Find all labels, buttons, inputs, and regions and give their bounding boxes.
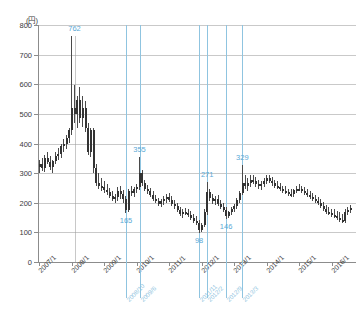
value-annotation-label: 762 bbox=[68, 24, 81, 33]
candle-body-down bbox=[336, 216, 338, 218]
candle-body-down bbox=[258, 184, 260, 186]
value-annotation-label: 165 bbox=[120, 216, 133, 225]
candle-body-down bbox=[339, 218, 341, 220]
candle-body-down bbox=[342, 220, 344, 222]
candle-wick bbox=[98, 173, 99, 189]
candle-body-down bbox=[141, 173, 143, 183]
value-annotation-label: 271 bbox=[201, 170, 214, 179]
candle-body-down bbox=[190, 215, 192, 218]
candle-body-down bbox=[93, 130, 95, 167]
candle-body-down bbox=[209, 192, 211, 198]
candle-body-up bbox=[44, 158, 46, 168]
candle-body-up bbox=[236, 200, 238, 206]
candle-body-down bbox=[317, 201, 319, 203]
candle-body-down bbox=[103, 187, 105, 189]
candle-body-down bbox=[155, 199, 157, 201]
candle-body-up bbox=[128, 191, 130, 209]
candle-body-up bbox=[160, 201, 162, 204]
candle-body-up bbox=[350, 208, 352, 210]
candle-body-up bbox=[166, 197, 168, 199]
candle-body-down bbox=[315, 199, 317, 201]
candle-body-up bbox=[163, 199, 165, 201]
candle-body-up bbox=[57, 154, 59, 156]
candle-body-down bbox=[271, 181, 273, 184]
candle-body-up bbox=[71, 108, 73, 130]
candle-body-up bbox=[136, 187, 138, 189]
candle-body-up bbox=[233, 206, 235, 209]
candle-body-up bbox=[201, 225, 203, 230]
candle-body-up bbox=[133, 189, 135, 193]
candle-body-down bbox=[274, 183, 276, 185]
candle-body-down bbox=[196, 221, 198, 223]
candle-body-down bbox=[290, 194, 292, 196]
candle-body-down bbox=[144, 183, 146, 188]
candle-body-down bbox=[185, 212, 187, 214]
value-annotation-label: 146 bbox=[220, 222, 233, 231]
candle-body-down bbox=[269, 178, 271, 180]
candle-body-down bbox=[301, 189, 303, 191]
candle-body-up bbox=[39, 164, 41, 167]
candle-body-down bbox=[298, 189, 300, 191]
candle-body-down bbox=[147, 189, 149, 192]
candle-body-down bbox=[223, 207, 225, 210]
stock-candlestick-chart: (円) 0100200300400500600700800 2007/12008… bbox=[0, 0, 364, 335]
candle-body-down bbox=[309, 195, 311, 197]
candle-wick bbox=[342, 214, 343, 223]
candle-body-down bbox=[252, 180, 254, 182]
value-annotation-label: 329 bbox=[236, 153, 249, 162]
candle-body-down bbox=[122, 194, 124, 199]
candle-body-down bbox=[255, 181, 257, 184]
candle-body-down bbox=[101, 186, 103, 188]
value-annotation-label: 355 bbox=[133, 145, 146, 154]
candle-body-down bbox=[74, 108, 76, 114]
candle-body-down bbox=[152, 195, 154, 199]
candle-body-down bbox=[198, 223, 200, 230]
candle-body-up bbox=[82, 108, 84, 118]
candle-body-down bbox=[98, 183, 100, 186]
candle-body-up bbox=[247, 183, 249, 186]
candle-body-up bbox=[90, 130, 92, 151]
candle-body-up bbox=[242, 183, 244, 194]
candle-body-down bbox=[220, 204, 222, 207]
candle-body-down bbox=[212, 198, 214, 201]
candle-body-down bbox=[244, 183, 246, 186]
candle-body-down bbox=[120, 191, 122, 195]
candle-body-down bbox=[95, 168, 97, 183]
candle-body-up bbox=[250, 180, 252, 183]
candle-body-down bbox=[331, 213, 333, 215]
candle-body-up bbox=[66, 138, 68, 145]
candle-body-up bbox=[52, 161, 54, 166]
candle-body-down bbox=[109, 192, 111, 196]
candle-body-down bbox=[279, 187, 281, 189]
candle-body-down bbox=[193, 218, 195, 221]
candle-body-down bbox=[277, 186, 279, 188]
candle-body-down bbox=[187, 213, 189, 215]
candle-body-down bbox=[325, 209, 327, 211]
candle-body-down bbox=[312, 197, 314, 199]
candle-body-down bbox=[174, 204, 176, 206]
candle-body-down bbox=[79, 100, 81, 118]
candle-body-up bbox=[228, 212, 230, 216]
candle-body-up bbox=[231, 209, 233, 212]
candle-body-up bbox=[204, 212, 206, 225]
candle-body-up bbox=[68, 130, 70, 138]
candle-body-down bbox=[85, 108, 87, 128]
candle-body-up bbox=[206, 192, 208, 212]
candle-body-up bbox=[293, 190, 295, 194]
candle-wick bbox=[74, 85, 75, 124]
candle-body-down bbox=[282, 189, 284, 191]
candle-body-down bbox=[49, 162, 51, 167]
candle-body-up bbox=[60, 146, 62, 154]
candle-body-down bbox=[288, 192, 290, 194]
candle-body-up bbox=[76, 100, 78, 114]
candle-body-down bbox=[106, 190, 108, 192]
candle-body-up bbox=[117, 191, 119, 198]
candle-body-down bbox=[47, 158, 49, 162]
candle-body-up bbox=[263, 181, 265, 185]
candle-body-down bbox=[168, 197, 170, 199]
candle-body-up bbox=[55, 156, 57, 161]
candle-body-down bbox=[87, 128, 89, 152]
candle-body-up bbox=[266, 178, 268, 180]
candlestick-series bbox=[0, 0, 364, 335]
candle-body-up bbox=[63, 144, 65, 146]
